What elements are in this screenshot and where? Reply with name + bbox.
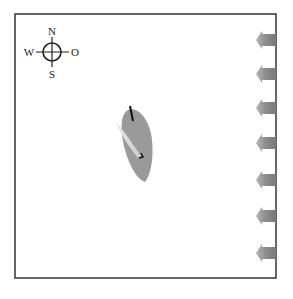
compass-south-label: S	[49, 68, 55, 80]
compass-north-label: N	[48, 25, 56, 37]
sailing-diagram: N S W O	[0, 0, 293, 299]
compass-west-label: W	[24, 46, 35, 58]
compass-east-label: O	[71, 46, 79, 58]
